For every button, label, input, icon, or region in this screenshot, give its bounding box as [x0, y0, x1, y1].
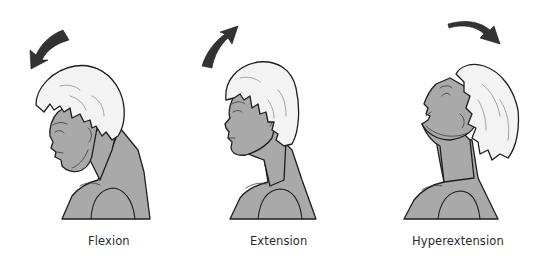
- extension-illustration: [180, 0, 360, 267]
- flexion-illustration: [0, 0, 180, 267]
- hyperextension-illustration: [360, 0, 540, 267]
- caption-extension: Extension: [250, 234, 307, 248]
- panel-flexion: Flexion: [0, 0, 180, 267]
- panel-extension: Extension: [180, 0, 360, 267]
- caption-hyperextension: Hyperextension: [412, 234, 504, 248]
- curved-arrow-icon: [30, 30, 69, 69]
- caption-flexion: Flexion: [88, 234, 130, 248]
- curved-arrow-icon: [448, 22, 500, 44]
- panel-hyperextension: Hyperextension: [360, 0, 540, 267]
- curved-arrow-icon: [202, 26, 238, 68]
